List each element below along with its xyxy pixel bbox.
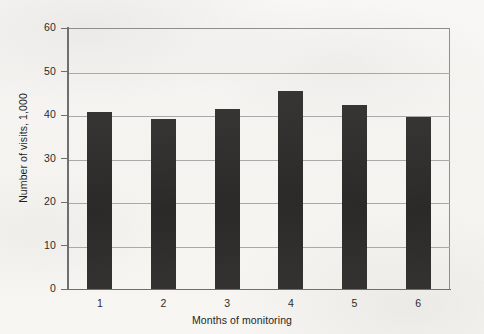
y-tick-label-10: 10 bbox=[16, 239, 56, 251]
gridline-y-30 bbox=[68, 160, 450, 161]
plot-area bbox=[68, 28, 450, 289]
y-tick-mark-60 bbox=[61, 28, 68, 29]
y-tick-mark-40 bbox=[61, 115, 68, 116]
y-tick-mark-50 bbox=[61, 71, 68, 72]
gridline-y-10 bbox=[68, 247, 450, 248]
gridline-y-40 bbox=[68, 116, 450, 117]
bar-month-3 bbox=[215, 109, 240, 289]
bar-month-5 bbox=[342, 105, 367, 289]
bar-chart-figure: 0102030405060123456 Number of visits, 1,… bbox=[0, 0, 484, 334]
x-tick-label-5: 5 bbox=[335, 297, 375, 309]
y-tick-mark-20 bbox=[61, 202, 68, 203]
x-axis-title: Months of monitoring bbox=[0, 314, 484, 326]
bar-month-4 bbox=[278, 91, 303, 289]
bar-month-1 bbox=[87, 112, 112, 289]
bar-month-6 bbox=[406, 117, 431, 289]
gridline-y-50 bbox=[68, 73, 450, 74]
y-tick-mark-0 bbox=[61, 289, 68, 290]
bar-month-2 bbox=[151, 119, 176, 289]
y-tick-label-60: 60 bbox=[16, 21, 56, 33]
x-tick-label-6: 6 bbox=[398, 297, 438, 309]
x-tick-label-1: 1 bbox=[80, 297, 120, 309]
y-tick-mark-30 bbox=[61, 158, 68, 159]
y-tick-label-50: 50 bbox=[16, 65, 56, 77]
y-tick-mark-10 bbox=[61, 245, 68, 246]
x-tick-label-2: 2 bbox=[144, 297, 184, 309]
x-tick-label-3: 3 bbox=[207, 297, 247, 309]
y-axis-title: Number of visits, 1,000 bbox=[17, 78, 29, 218]
x-tick-label-4: 4 bbox=[271, 297, 311, 309]
y-tick-label-0: 0 bbox=[16, 282, 56, 294]
gridline-y-20 bbox=[68, 203, 450, 204]
x-axis-line bbox=[68, 289, 451, 290]
